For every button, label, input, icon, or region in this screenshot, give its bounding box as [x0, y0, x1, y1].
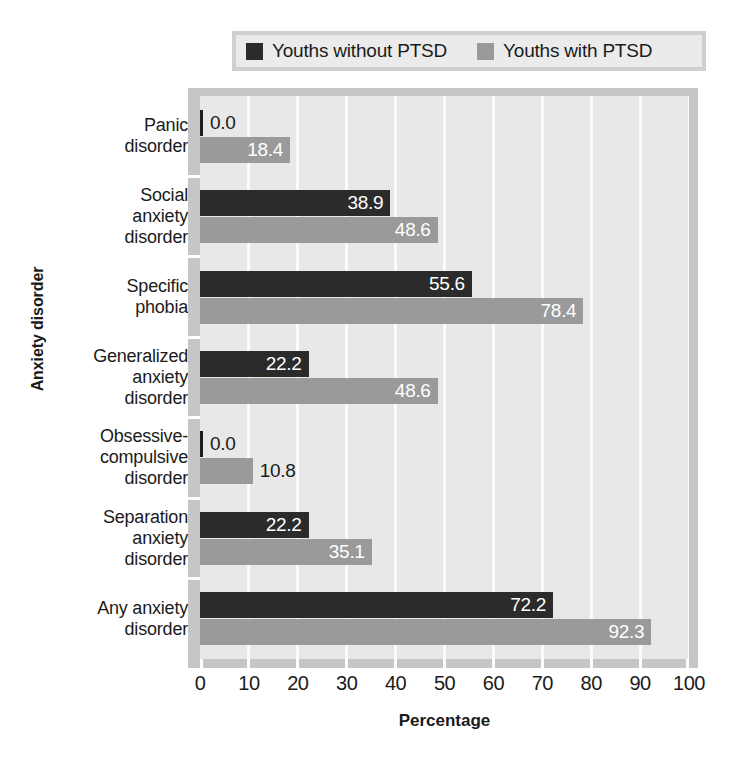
- bar-value-label: 22.2: [266, 353, 302, 375]
- y-axis-tick: [188, 416, 200, 419]
- x-axis-tick-labels: 0102030405060708090100: [200, 672, 689, 702]
- bar: 22.2: [200, 351, 309, 377]
- x-axis-title: Percentage: [200, 711, 689, 731]
- y-axis-tick: [188, 336, 200, 339]
- bar: [200, 431, 203, 457]
- chart-legend: Youths without PTSD Youths with PTSD: [232, 31, 706, 71]
- y-axis-category-label: Obsessive-compulsivedisorder: [40, 426, 188, 489]
- legend-item-without-ptsd: Youths without PTSD: [246, 40, 447, 62]
- x-axis-tick: [394, 659, 397, 668]
- x-axis-tick: [200, 659, 203, 668]
- legend-item-with-ptsd: Youths with PTSD: [477, 40, 652, 62]
- bar-value-label: 10.8: [260, 460, 296, 482]
- category-label-line: disorder: [40, 549, 188, 570]
- y-axis-tick: [188, 497, 200, 500]
- x-axis-tick-label: 10: [238, 672, 259, 695]
- y-axis-tick: [188, 255, 200, 258]
- gridline: [590, 96, 593, 659]
- category-label-line: anxiety: [40, 367, 188, 388]
- category-label-line: Separation: [40, 507, 188, 528]
- x-axis-tick: [443, 659, 446, 668]
- x-axis-tick: [247, 659, 250, 668]
- x-axis-tick: [296, 659, 299, 668]
- y-axis-category-label: Panicdisorder: [40, 115, 188, 157]
- category-label-line: anxiety: [40, 528, 188, 549]
- bar-value-label: 92.3: [609, 621, 645, 643]
- category-label-line: phobia: [40, 297, 188, 318]
- bar-value-label: 55.6: [429, 273, 465, 295]
- x-axis-tick-band: [200, 659, 689, 668]
- x-axis-tick: [639, 659, 642, 668]
- y-axis-tick-band: [188, 96, 200, 659]
- x-axis-tick-label: 0: [195, 672, 206, 695]
- bar-value-label: 0.0: [210, 112, 236, 134]
- y-axis-category-label: Generalizedanxietydisorder: [40, 346, 188, 409]
- x-axis-tick-label: 20: [287, 672, 308, 695]
- legend-swatch-with-ptsd: [477, 43, 494, 60]
- bar-value-label: 38.9: [347, 192, 383, 214]
- bar: 92.3: [200, 619, 651, 645]
- category-label-line: disorder: [40, 227, 188, 248]
- x-axis-tick-label: 60: [483, 672, 504, 695]
- legend-swatch-without-ptsd: [246, 43, 263, 60]
- bar-value-label: 35.1: [329, 541, 365, 563]
- bar-value-label: 22.2: [266, 514, 302, 536]
- bar-value-label: 48.6: [395, 219, 431, 241]
- category-label-line: Obsessive-: [40, 426, 188, 447]
- bar: 55.6: [200, 271, 472, 297]
- x-axis-tick: [541, 659, 544, 668]
- category-label-line: Any anxiety: [40, 598, 188, 619]
- bar: [200, 458, 253, 484]
- gridline: [639, 96, 642, 659]
- category-label-line: Generalized: [40, 346, 188, 367]
- category-label-line: disorder: [40, 388, 188, 409]
- category-label-line: disorder: [40, 619, 188, 640]
- bar-value-label: 0.0: [210, 433, 236, 455]
- bar-chart: Youths without PTSD Youths with PTSD Anx…: [0, 0, 732, 768]
- category-label-line: Social: [40, 185, 188, 206]
- bar: 48.6: [200, 217, 438, 243]
- x-axis-tick-label: 30: [336, 672, 357, 695]
- x-axis-tick: [686, 659, 689, 668]
- category-label-line: disorder: [40, 136, 188, 157]
- bar-value-label: 48.6: [395, 380, 431, 402]
- y-axis-category-label: Socialanxietydisorder: [40, 185, 188, 248]
- bar: 18.4: [200, 137, 290, 163]
- bar: 78.4: [200, 298, 583, 324]
- plot-area: 0.018.438.948.655.678.422.248.60.010.822…: [200, 96, 689, 659]
- gridline: [492, 96, 495, 659]
- bar-value-label: 72.2: [510, 594, 546, 616]
- category-label-line: disorder: [40, 468, 188, 489]
- y-axis-tick: [188, 175, 200, 178]
- x-axis-tick-label: 100: [673, 672, 705, 695]
- y-axis-category-label: Separationanxietydisorder: [40, 507, 188, 570]
- bar: 48.6: [200, 378, 438, 404]
- legend-label-without-ptsd: Youths without PTSD: [272, 40, 447, 62]
- legend-label-with-ptsd: Youths with PTSD: [503, 40, 652, 62]
- gridline: [541, 96, 544, 659]
- bar: 22.2: [200, 512, 309, 538]
- category-label-line: Specific: [40, 276, 188, 297]
- bar: 35.1: [200, 539, 372, 565]
- bar-value-label: 18.4: [247, 139, 283, 161]
- category-label-line: Panic: [40, 115, 188, 136]
- bar: 72.2: [200, 592, 553, 618]
- category-label-line: compulsive: [40, 447, 188, 468]
- x-axis-tick-label: 40: [385, 672, 406, 695]
- bar: 38.9: [200, 190, 390, 216]
- category-label-line: anxiety: [40, 206, 188, 227]
- gridline: [688, 96, 690, 659]
- x-axis-tick-label: 80: [581, 672, 602, 695]
- x-axis-tick: [345, 659, 348, 668]
- y-axis-category-labels: PanicdisorderSocialanxietydisorderSpecif…: [40, 96, 188, 659]
- y-axis-category-label: Any anxietydisorder: [40, 598, 188, 640]
- x-axis-tick: [492, 659, 495, 668]
- x-axis-tick-label: 50: [434, 672, 455, 695]
- y-axis-tick: [188, 577, 200, 580]
- x-axis-tick-label: 70: [532, 672, 553, 695]
- y-axis-category-label: Specificphobia: [40, 276, 188, 318]
- bar: [200, 110, 203, 136]
- x-axis-tick-label: 90: [629, 672, 650, 695]
- bar-value-label: 78.4: [541, 300, 577, 322]
- x-axis-tick: [590, 659, 593, 668]
